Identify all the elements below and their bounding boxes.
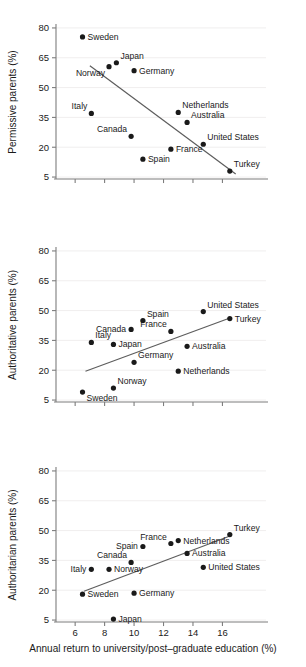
data-point xyxy=(176,369,181,374)
y-tick-label: 20 xyxy=(38,365,49,376)
data-point-label: Netherlands xyxy=(183,536,229,546)
x-axis-title: Annual return to university/post–graduat… xyxy=(29,643,276,654)
y-tick-label: 65 xyxy=(38,495,49,506)
x-tick-label: 10 xyxy=(129,627,140,638)
y-axis-title: Authoritarian parents (%) xyxy=(7,489,18,600)
data-point-label: Norway xyxy=(114,564,144,574)
data-point-label: Italy xyxy=(71,564,87,574)
data-point-label: Italy xyxy=(72,101,88,111)
scatter-plot-0: 52035506580Permissive parents (%)SwedenJ… xyxy=(0,0,306,223)
panel-authoritative: 52035506580Authoritative parents (%)Unit… xyxy=(0,223,306,443)
y-tick-label: 80 xyxy=(38,22,49,33)
data-point xyxy=(129,327,134,332)
data-point xyxy=(111,386,116,391)
y-axis-title: Authoritative parents (%) xyxy=(7,270,18,380)
y-tick-label: 5 xyxy=(44,171,49,182)
data-points: SwedenJapanNorwayGermanyItalyNetherlands… xyxy=(72,32,261,174)
data-point-label: Spain xyxy=(147,309,169,319)
data-point xyxy=(140,544,145,549)
data-point-label: United States xyxy=(208,562,260,572)
data-point xyxy=(131,591,136,596)
panel-permissive: 52035506580Permissive parents (%)SwedenJ… xyxy=(0,0,306,223)
data-point-label: France xyxy=(140,319,167,329)
data-point-label: Australia xyxy=(191,110,225,120)
data-point-label: Sweden xyxy=(87,393,118,403)
data-point xyxy=(227,316,232,321)
data-point xyxy=(106,567,111,572)
data-point-label: Sweden xyxy=(88,32,119,42)
data-point xyxy=(168,541,173,546)
data-point xyxy=(168,147,173,152)
data-point-label: Japan xyxy=(118,339,142,349)
data-point xyxy=(80,34,85,39)
data-point xyxy=(184,120,189,125)
data-point-label: Norway xyxy=(76,68,106,78)
data-point-label: Turkey xyxy=(234,523,261,533)
data-point xyxy=(89,111,94,116)
data-point xyxy=(89,567,94,572)
x-tick-label: 14 xyxy=(188,627,199,638)
y-tick-label: 5 xyxy=(44,394,49,405)
data-point xyxy=(80,592,85,597)
data-point-label: Australia xyxy=(192,548,226,558)
y-axis-title: Permissive parents (%) xyxy=(7,50,18,153)
data-point-label: United States xyxy=(207,132,259,142)
y-tick-label: 5 xyxy=(44,614,49,625)
x-tick-label: 6 xyxy=(72,627,77,638)
data-point xyxy=(89,340,94,345)
data-point xyxy=(176,538,181,543)
data-point-label: Turkey xyxy=(235,314,262,324)
y-tick-label: 80 xyxy=(38,245,49,256)
data-point xyxy=(168,329,173,334)
data-point-label: Germany xyxy=(138,350,174,360)
data-point-label: Japan xyxy=(118,614,142,624)
data-point-label: France xyxy=(140,532,167,542)
y-tick-label: 35 xyxy=(38,112,49,123)
data-point xyxy=(111,616,116,621)
x-tick-label: 8 xyxy=(102,627,107,638)
y-tick-label: 80 xyxy=(38,465,49,476)
y-tick-label: 50 xyxy=(38,305,49,316)
x-tick-label: 16 xyxy=(217,627,228,638)
data-point-label: Netherlands xyxy=(183,366,229,376)
y-tick-label: 20 xyxy=(38,142,49,153)
axes: 520355065806810121416 xyxy=(38,465,268,638)
data-point-label: Australia xyxy=(192,341,226,351)
data-point xyxy=(111,342,116,347)
data-point xyxy=(140,157,145,162)
data-point-label: Germany xyxy=(139,66,175,76)
data-point-label: Italy xyxy=(95,330,111,340)
data-point-label: Sweden xyxy=(88,589,119,599)
y-tick-label: 65 xyxy=(38,52,49,63)
data-point-label: Norway xyxy=(117,376,147,386)
y-tick-label: 65 xyxy=(38,275,49,286)
data-point xyxy=(131,360,136,365)
data-points: TurkeyNetherlandsFranceSpainAustraliaCan… xyxy=(71,523,261,624)
data-point xyxy=(129,134,134,139)
data-point-label: Turkey xyxy=(234,159,261,169)
y-tick-label: 35 xyxy=(38,555,49,566)
data-point xyxy=(80,390,85,395)
x-tick-label: 12 xyxy=(158,627,169,638)
data-point xyxy=(176,110,181,115)
data-point-label: Canada xyxy=(97,124,127,134)
data-point xyxy=(184,551,189,556)
y-tick-label: 50 xyxy=(38,82,49,93)
data-point-label: Spain xyxy=(148,154,170,164)
data-points: United StatesTurkeySpainCanadaFranceItal… xyxy=(80,300,262,404)
scatter-plot-1: 52035506580Authoritative parents (%)Unit… xyxy=(0,223,306,443)
data-point xyxy=(114,60,119,65)
data-point-label: Germany xyxy=(139,588,175,598)
scatter-plot-2: 520355065806810121416Authoritarian paren… xyxy=(0,443,306,667)
data-point xyxy=(227,168,232,173)
data-point-label: France xyxy=(176,144,203,154)
data-point-label: Japan xyxy=(120,51,144,61)
data-point xyxy=(201,565,206,570)
data-point xyxy=(184,344,189,349)
y-tick-label: 35 xyxy=(38,335,49,346)
data-point xyxy=(131,68,136,73)
data-point xyxy=(201,309,206,314)
panel-authoritarian: 520355065806810121416Authoritarian paren… xyxy=(0,443,306,667)
y-tick-label: 20 xyxy=(38,585,49,596)
data-point-label: Netherlands xyxy=(182,100,228,110)
